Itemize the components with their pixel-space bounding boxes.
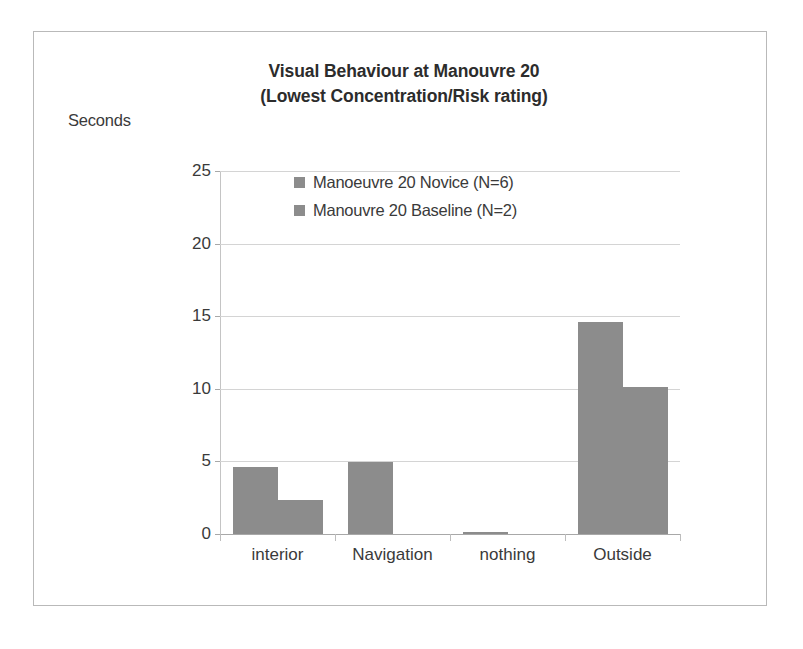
y-tick-mark xyxy=(215,171,220,172)
x-tick-label: nothing xyxy=(450,545,565,565)
y-tick-label: 20 xyxy=(192,233,211,253)
chart-title: Visual Behaviour at Manouvre 20 (Lowest … xyxy=(154,59,654,109)
y-tick-mark xyxy=(215,389,220,390)
gridline xyxy=(220,244,680,245)
bar xyxy=(233,467,278,534)
y-tick-label: 10 xyxy=(192,378,211,398)
bar xyxy=(578,322,623,534)
y-tick-mark xyxy=(215,244,220,245)
x-tick-label: Navigation xyxy=(335,545,450,565)
bar xyxy=(278,500,323,534)
y-axis-label: Seconds xyxy=(68,111,131,130)
x-tick-mark xyxy=(680,534,681,541)
x-tick-mark xyxy=(335,534,336,541)
y-tick-mark xyxy=(215,316,220,317)
bar xyxy=(623,387,668,534)
bar xyxy=(348,462,393,534)
x-tick-label: interior xyxy=(220,545,335,565)
y-tick-label: 15 xyxy=(192,306,211,326)
x-tick-mark xyxy=(565,534,566,541)
chart-frame: Visual Behaviour at Manouvre 20 (Lowest … xyxy=(33,31,767,606)
x-tick-mark xyxy=(220,534,221,541)
y-tick-label: 0 xyxy=(202,524,211,544)
chart-title-line-2: (Lowest Concentration/Risk rating) xyxy=(154,84,654,109)
plot-area: 0510152025 xyxy=(220,171,680,534)
y-axis-line xyxy=(220,171,221,534)
gridline xyxy=(220,171,680,172)
chart-title-line-1: Visual Behaviour at Manouvre 20 xyxy=(269,61,540,81)
x-tick-label: Outside xyxy=(565,545,680,565)
x-tick-mark xyxy=(450,534,451,541)
y-tick-mark xyxy=(215,461,220,462)
gridline xyxy=(220,316,680,317)
y-tick-label: 5 xyxy=(202,451,211,471)
y-tick-label: 25 xyxy=(192,161,211,181)
